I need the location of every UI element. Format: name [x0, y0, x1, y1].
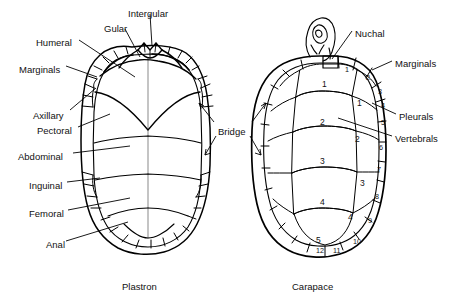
humeral-pectoral-seam	[95, 92, 200, 130]
vertebral-5	[294, 208, 353, 245]
carapace-inner-rim	[264, 63, 379, 246]
intergular-scute	[138, 43, 162, 50]
label-marginals-plastron: Marginals	[19, 65, 60, 75]
marginal-number: 11	[333, 246, 340, 255]
marginal-number: 10	[353, 237, 361, 246]
marginal-number: 8	[375, 192, 379, 201]
plastron-gular-edge-right	[152, 54, 189, 70]
label-marginals-carapace: Marginals	[395, 59, 436, 69]
marginal-number: 4	[381, 101, 385, 110]
gular-seam-right	[162, 50, 182, 68]
label-inguinal: Inguinal	[29, 181, 62, 191]
label-vertebrals: Vertebrals	[395, 134, 438, 144]
marginal-number: 5	[381, 118, 385, 127]
anal-notch	[124, 224, 174, 238]
label-nuchal: Nuchal	[355, 29, 385, 39]
leader-marginals-plastron	[66, 66, 97, 77]
pleural-number: 3	[360, 178, 365, 188]
label-intergular: Intergular	[128, 9, 168, 19]
pectoral-abdominal-seam	[94, 136, 201, 143]
carapace-pleurals-left	[268, 70, 300, 214]
carapace-leader-lines	[332, 31, 396, 136]
pleural-number: 1	[357, 98, 362, 108]
marginal-number: 3	[378, 87, 382, 96]
vertebral-number: 2	[320, 117, 325, 127]
pleural-number: 2	[355, 134, 360, 144]
caption-carapace: Carapace	[292, 281, 333, 292]
label-pleurals: Pleurals	[399, 112, 433, 122]
label-pectoral: Pectoral	[37, 126, 72, 136]
marginal-number: 2	[366, 73, 370, 82]
label-femoral: Femoral	[29, 209, 64, 219]
label-axillary: Axillary	[33, 111, 64, 121]
marginal-number: 1	[345, 65, 349, 74]
gular-seam-left	[119, 50, 138, 68]
vertebral-number: 1	[322, 79, 327, 89]
vertebral-number: 4	[320, 197, 325, 207]
vertebral-number: 5	[316, 235, 321, 245]
pleural-number: 4	[348, 212, 353, 222]
label-bridge: Bridge	[218, 127, 245, 137]
marginal-number: 9	[368, 216, 372, 225]
label-humeral: Humeral	[36, 38, 72, 48]
label-anal: Anal	[46, 240, 65, 250]
leader-marginals-carapace	[372, 61, 392, 70]
plastron-drawing	[81, 43, 213, 254]
marginal-number: 12	[316, 246, 324, 255]
marginal-number: 7	[377, 165, 381, 174]
turtle-head	[306, 18, 335, 61]
label-gular: Gular	[104, 24, 127, 34]
label-abdominal: Abdominal	[18, 152, 63, 162]
caption-plastron: Plastron	[122, 281, 157, 292]
marginal-number: 6	[379, 143, 383, 152]
carapace-outer-rim	[252, 56, 386, 257]
vertebral-number: 3	[320, 156, 325, 166]
carapace-drawing	[252, 18, 386, 257]
plastron-body	[93, 54, 202, 247]
